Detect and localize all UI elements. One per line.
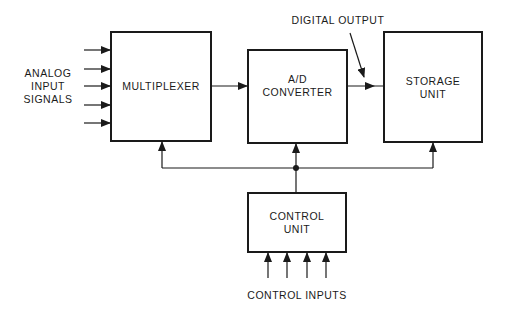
analog-label-line1: ANALOG <box>20 67 76 80</box>
storage-label-line1: STORAGE <box>384 75 482 88</box>
ad-label-line1: A/D <box>248 73 347 86</box>
multiplexer-label: MULTIPLEXER <box>111 80 211 93</box>
control-label-line1: CONTROL <box>248 210 346 223</box>
storage-unit-label: STORAGE UNIT <box>384 75 482 101</box>
diagram-canvas <box>0 0 505 314</box>
analog-label-line3: SIGNALS <box>20 93 76 106</box>
control-inputs-label: CONTROL INPUTS <box>232 289 362 302</box>
control-input-arrows <box>268 253 326 278</box>
digital-output-label: DIGITAL OUTPUT <box>268 14 408 27</box>
storage-label-line2: UNIT <box>384 88 482 101</box>
ad-converter-label: A/D CONVERTER <box>248 73 347 99</box>
digital-output-pointer <box>350 33 364 77</box>
control-unit-label: CONTROL UNIT <box>248 210 346 236</box>
control-label-line2: UNIT <box>248 223 346 236</box>
bus-junction-dot <box>293 165 299 171</box>
ad-label-line2: CONVERTER <box>248 86 347 99</box>
analog-label-line2: INPUT <box>20 80 76 93</box>
analog-input-arrows <box>84 50 110 123</box>
analog-input-signals-label: ANALOG INPUT SIGNALS <box>20 67 76 106</box>
